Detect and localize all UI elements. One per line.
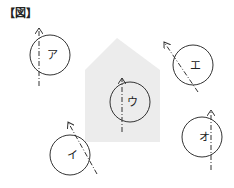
circle-group-a: ア	[30, 28, 70, 86]
circle-label-e: エ	[190, 59, 201, 72]
circle-group-e: エ	[164, 42, 213, 92]
diagram-canvas: アエウイオ	[0, 0, 234, 188]
circle-label-o: オ	[199, 131, 210, 144]
circle-label-a: ア	[47, 49, 58, 62]
circle-group-o: オ	[182, 110, 222, 170]
circle-label-i: イ	[67, 149, 78, 162]
circle-label-u: ウ	[127, 96, 138, 109]
diagram: 【図】 アエウイオ	[0, 0, 234, 188]
